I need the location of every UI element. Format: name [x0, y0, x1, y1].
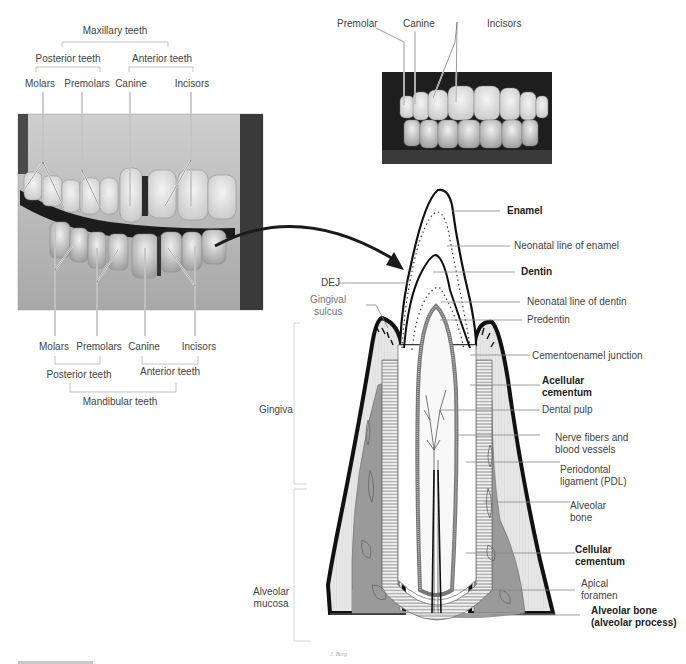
- neonatal-dentin-label: Neonatal line of dentin: [527, 296, 627, 308]
- frontal-canine-label: Canine: [403, 18, 435, 30]
- maxillary-anterior-label: Anterior teeth: [132, 53, 192, 65]
- mandibular-premolars-label: Premolars: [76, 341, 122, 353]
- cellular-cementum-label: Cellular cementum: [575, 544, 625, 568]
- region-brackets: [294, 323, 310, 641]
- gingival-sulcus-label: Gingival sulcus: [310, 294, 346, 318]
- maxillary-incisors-label: Incisors: [175, 78, 209, 90]
- mandibular-canine-label: Canine: [128, 341, 160, 353]
- enamel-label: Enamel: [507, 205, 543, 217]
- maxillary-premolars-label: Premolars: [64, 78, 110, 90]
- mandibular-incisors-label: Incisors: [182, 341, 216, 353]
- maxillary-molars-label: Molars: [25, 78, 55, 90]
- maxillary-posterior-label: Posterior teeth: [35, 53, 100, 65]
- maxillary-canine-label: Canine: [115, 78, 147, 90]
- alveolar-process-label: Alveolar bone (alveolar process): [591, 605, 677, 629]
- predentin-label: Predentin: [527, 314, 570, 326]
- frontal-premolar-label: Premolar: [337, 18, 378, 30]
- artist-signature: J. Berg: [330, 648, 347, 660]
- gingiva-label: Gingiva: [259, 404, 293, 416]
- dentin-label: Dentin: [521, 266, 552, 278]
- frontal-incisors-label: Incisors: [487, 18, 521, 30]
- alveolar-bone-label: Alveolar bone: [570, 500, 606, 524]
- cej-label: Cementoenamel junction: [532, 350, 643, 362]
- apical-foramen-label: Apical foramen: [581, 578, 618, 602]
- mandibular-molars-label: Molars: [39, 341, 69, 353]
- alveolar-mucosa-label: Alveolar mucosa: [253, 586, 289, 610]
- nerve-fibers-label: Nerve fibers and blood vessels: [555, 432, 628, 456]
- neonatal-enamel-label: Neonatal line of enamel: [514, 240, 619, 252]
- dej-label: DEJ: [321, 277, 340, 289]
- tooth-cross-section: [328, 190, 556, 620]
- maxillary-teeth-label: Maxillary teeth: [83, 25, 147, 37]
- mandibular-teeth-label: Mandibular teeth: [83, 396, 158, 408]
- mandibular-anterior-label: Anterior teeth: [140, 366, 200, 378]
- acellular-cementum-label: Acellular cementum: [542, 375, 592, 399]
- pdl-label: Periodontal ligament (PDL): [560, 464, 627, 488]
- mandibular-posterior-label: Posterior teeth: [46, 369, 111, 381]
- dental-pulp-label: Dental pulp: [542, 404, 593, 416]
- frontal-teeth-photo: [382, 72, 552, 164]
